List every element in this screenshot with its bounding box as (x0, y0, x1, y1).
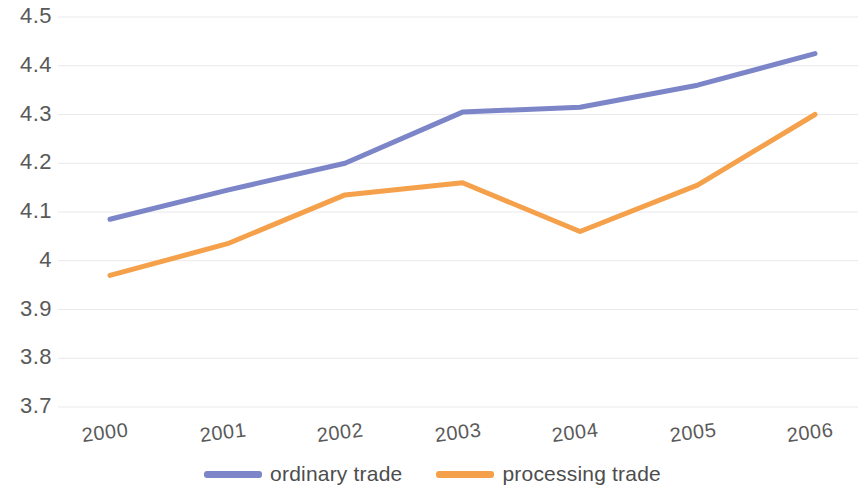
y-tick-label: 4.5 (20, 3, 52, 29)
chart-plot-area (0, 0, 865, 497)
series-line-ordinary-trade (110, 54, 815, 220)
y-tick-label: 4.3 (20, 101, 52, 127)
y-tick-label: 4.1 (20, 198, 52, 224)
line-chart: 4.54.44.34.24.143.93.83.7 20002001200220… (0, 0, 865, 497)
y-tick-label: 3.7 (20, 393, 52, 419)
legend-label: ordinary trade (270, 462, 402, 486)
y-tick-label: 4 (39, 247, 52, 273)
y-tick-label: 4.4 (20, 52, 52, 78)
legend-swatch-icon (204, 471, 262, 478)
y-tick-label: 3.9 (20, 296, 52, 322)
y-tick-label: 3.8 (20, 344, 52, 370)
y-tick-label: 4.2 (20, 149, 52, 175)
chart-legend: ordinary tradeprocessing trade (0, 462, 865, 486)
legend-entry[interactable]: ordinary trade (204, 462, 402, 486)
legend-label: processing trade (502, 462, 660, 486)
series-lines (110, 54, 815, 276)
legend-entry[interactable]: processing trade (436, 462, 660, 486)
legend-swatch-icon (436, 471, 494, 478)
